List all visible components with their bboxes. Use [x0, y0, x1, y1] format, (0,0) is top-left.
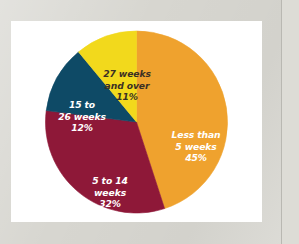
- page-root: Less than 5 weeks 45% 5 to 14 weeks 32% …: [0, 0, 299, 244]
- page-gutter-shade: [282, 0, 299, 244]
- pie-chart-card: Less than 5 weeks 45% 5 to 14 weeks 32% …: [11, 21, 262, 222]
- pie-chart: Less than 5 weeks 45% 5 to 14 weeks 32% …: [11, 21, 262, 222]
- pie-slice-group: [46, 31, 228, 213]
- pie-chart-svg: [11, 21, 262, 222]
